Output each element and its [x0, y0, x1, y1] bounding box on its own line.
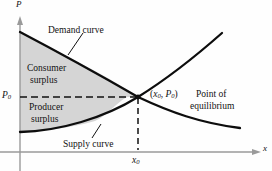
equilibrium-text-line1: Point of	[196, 89, 226, 99]
equilibrium-point-coordinates: (x0, P0)	[150, 89, 178, 100]
consumer-surplus-label-line2: surplus	[30, 75, 57, 85]
paren-close: )	[175, 89, 178, 99]
diagram-canvas	[0, 0, 272, 171]
equilibrium-point-marker	[136, 95, 141, 100]
equilibrium-quantity-tick-label: x0	[132, 155, 140, 166]
supply-curve-label: Supply curve	[63, 139, 113, 149]
price-tick-sub: 0	[8, 93, 11, 100]
supply-curve-leader-line	[92, 124, 101, 138]
y-axis-arrow-icon	[17, 16, 23, 25]
y-axis-label: P	[16, 0, 22, 10]
demand-curve-leader-line	[68, 33, 83, 55]
equilibrium-text-line2: equilibrium	[190, 101, 234, 111]
x-axis-arrow-icon	[252, 149, 261, 155]
surplus-diagram: P x P0 x0 Demand curve Supply curve Cons…	[0, 0, 272, 171]
x-axis-label: x	[263, 144, 267, 154]
demand-curve-label: Demand curve	[48, 25, 104, 35]
producer-surplus-label-line2: surplus	[31, 114, 58, 124]
equilibrium-price-tick-label: P0	[2, 90, 11, 101]
consumer-surplus-label-line1: Consumer	[27, 63, 66, 73]
quantity-tick-sub: 0	[136, 158, 139, 165]
producer-surplus-label-line1: Producer	[29, 102, 63, 112]
